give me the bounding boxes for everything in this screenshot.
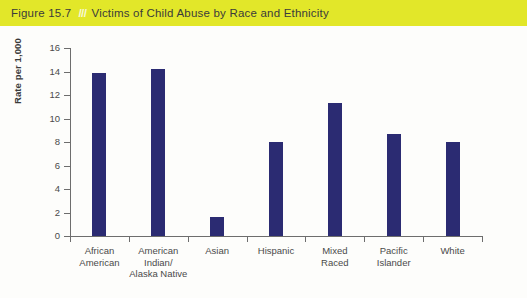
x-axis-tick	[70, 236, 71, 242]
x-axis-category-label: Hispanic	[247, 245, 306, 257]
x-axis-tick	[129, 236, 130, 242]
x-axis-line	[70, 236, 482, 237]
chart-plot-area: Rate per 1,000 0246810121416 African Ame…	[0, 26, 527, 298]
figure-title: Victims of Child Abuse by Race and Ethni…	[91, 7, 328, 19]
x-axis-category-label: Pacific Islander	[364, 245, 423, 268]
y-axis-tick-label: 8	[20, 136, 60, 147]
x-axis-tick	[188, 236, 189, 242]
x-axis-tick	[305, 236, 306, 242]
bars-layer	[70, 48, 482, 236]
y-axis-tick-label: 12	[20, 89, 60, 100]
bar	[387, 134, 401, 236]
figure-title-band: Figure 15.7 /// Victims of Child Abuse b…	[0, 0, 527, 26]
bar	[210, 217, 224, 236]
x-axis-category-label: Asian	[188, 245, 247, 257]
figure-number: Figure 15.7	[11, 7, 71, 19]
figure-container: Figure 15.7 /// Victims of Child Abuse b…	[0, 0, 527, 298]
x-axis-tick	[364, 236, 365, 242]
bar	[328, 103, 342, 236]
y-axis-tick-label: 6	[20, 160, 60, 171]
bar	[446, 142, 460, 236]
bar	[92, 73, 106, 236]
x-axis-tick	[482, 236, 483, 242]
x-axis-tick	[423, 236, 424, 242]
y-axis-tick-label: 2	[20, 207, 60, 218]
y-axis-tick-label: 14	[20, 66, 60, 77]
y-axis-tick-label: 10	[20, 113, 60, 124]
bar	[269, 142, 283, 236]
x-axis-category-label: White	[423, 245, 482, 257]
x-axis-category-label: African American	[70, 245, 129, 268]
y-axis-tick-label: 0	[20, 230, 60, 241]
figure-separator-slashes: ///	[78, 7, 86, 19]
bar	[151, 69, 165, 236]
x-axis-category-label: American Indian/ Alaska Native	[129, 245, 188, 280]
y-axis-tick-label: 16	[20, 42, 60, 53]
x-axis-tick	[247, 236, 248, 242]
x-axis-category-label: Mixed Raced	[305, 245, 364, 268]
y-axis-tick-label: 4	[20, 183, 60, 194]
